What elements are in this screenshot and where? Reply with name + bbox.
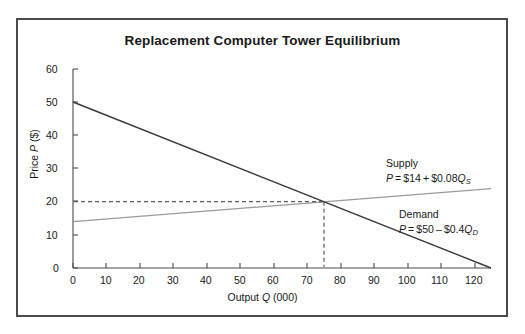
x-tick-label-40: 40 <box>200 274 212 286</box>
y-tick-label-50: 50 <box>46 96 58 108</box>
y-axis-title-pre: Price <box>28 152 40 179</box>
supply-equation: P = $14 + $0.08QS <box>386 171 471 187</box>
demand-eq-qvar: Q <box>464 223 472 235</box>
x-tick-label-0: 0 <box>70 274 76 286</box>
x-axis-title-pre: Output <box>227 291 261 303</box>
x-axis-title-post: (000) <box>270 291 297 303</box>
chart-figure: Replacement Computer Tower Equilibrium <box>0 0 525 334</box>
x-tick-label-100: 100 <box>398 274 416 286</box>
demand-eq-sign: = <box>406 223 416 235</box>
demand-eq-lhs: P <box>399 223 406 235</box>
supply-label: Supply <box>386 157 418 169</box>
demand-equation: P = $50 – $0.4QD <box>399 222 478 238</box>
x-tick-label-120: 120 <box>465 274 483 286</box>
y-tick-label-40: 40 <box>46 129 58 141</box>
x-tick-label-90: 90 <box>368 274 380 286</box>
x-tick-label-50: 50 <box>234 274 246 286</box>
x-tick-label-30: 30 <box>167 274 179 286</box>
demand-eq-body: $50 – $0.4 <box>416 223 464 235</box>
x-tick-label-80: 80 <box>334 274 346 286</box>
demand-annotation: Demand P = $50 – $0.4QD <box>399 207 478 238</box>
supply-annotation: Supply P = $14 + $0.08QS <box>386 156 471 187</box>
x-tick-label-60: 60 <box>267 274 279 286</box>
supply-eq-lhs: P <box>386 172 393 184</box>
supply-eq-body: $14 + $0.08 <box>403 172 457 184</box>
y-tick-label-10: 10 <box>46 229 58 241</box>
y-tick-label-20: 20 <box>46 195 58 207</box>
y-axis-title: Price P ($) <box>24 99 42 209</box>
y-axis-title-post: ($) <box>28 129 40 145</box>
demand-label: Demand <box>399 208 439 220</box>
x-tick-marks <box>73 263 475 268</box>
x-axis-title: Output Q (000) <box>0 291 525 303</box>
y-tick-label-30: 30 <box>46 162 58 174</box>
y-tick-label-0: 0 <box>53 262 59 274</box>
supply-eq-subscript: S <box>466 177 471 186</box>
x-tick-label-70: 70 <box>301 274 313 286</box>
y-tick-marks <box>73 69 78 268</box>
x-tick-label-20: 20 <box>133 274 145 286</box>
y-tick-label-60: 60 <box>46 63 58 75</box>
supply-eq-sign: = <box>393 172 403 184</box>
demand-eq-subscript: D <box>473 228 478 237</box>
y-axis-title-var: P <box>28 145 40 152</box>
x-tick-label-10: 10 <box>100 274 112 286</box>
x-tick-label-110: 110 <box>431 274 448 286</box>
x-axis-title-var: Q <box>262 291 270 303</box>
supply-eq-qvar: Q <box>458 172 466 184</box>
